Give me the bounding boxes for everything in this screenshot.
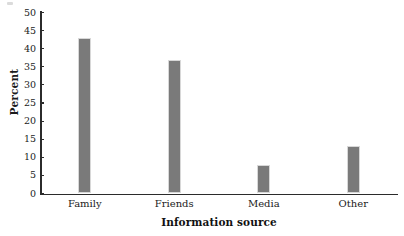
y-axis-tick-label-text: 0	[12, 188, 36, 199]
x-axis-title: Information source	[40, 216, 398, 228]
y-axis-tick	[40, 30, 44, 31]
bar	[257, 165, 270, 194]
y-axis-tick-label-text: 50	[12, 7, 36, 18]
y-axis-tick	[40, 84, 44, 85]
y-axis-tick-label: 0	[12, 188, 36, 200]
y-axis-tick-label: 10	[12, 151, 36, 163]
y-axis-tick-label: 35	[12, 61, 36, 73]
y-axis-tick	[40, 139, 44, 140]
bar	[78, 38, 91, 194]
y-axis-tick	[40, 66, 44, 67]
y-axis-tick	[40, 121, 44, 122]
x-axis-line	[40, 194, 398, 196]
y-axis-tick-label: 25	[12, 97, 36, 109]
y-axis-tick-label: 45	[12, 25, 36, 37]
y-axis-tick-label-text: 20	[12, 115, 36, 126]
y-axis-tick-label: 50	[12, 7, 36, 19]
y-axis-tick	[40, 12, 44, 13]
x-axis-tick-label: Family	[40, 198, 130, 209]
y-axis-tick-label-text: 15	[12, 133, 36, 144]
y-axis-tick-label: 5	[12, 169, 36, 181]
y-axis-tick-label-text: 40	[12, 43, 36, 54]
y-axis-tick-label-text: 5	[12, 169, 36, 180]
y-axis-tick	[40, 48, 44, 49]
y-axis-tick-label: 20	[12, 115, 36, 127]
scan-artifact-speck	[7, 2, 13, 5]
y-axis-tick	[40, 102, 44, 103]
y-axis-tick-label: 30	[12, 79, 36, 91]
bar-chart-figure: Percent 05101520253035404550 FamilyFrien…	[0, 0, 404, 236]
y-axis-tick	[40, 193, 44, 194]
x-axis-tick-label: Friends	[129, 198, 219, 209]
y-axis-tick-label-text: 30	[12, 79, 36, 90]
y-axis-tick-label-text: 45	[12, 25, 36, 36]
bar	[347, 146, 360, 193]
y-axis-tick-label: 15	[12, 133, 36, 145]
x-axis-tick-label: Media	[219, 198, 309, 209]
y-axis-tick-label-text: 10	[12, 151, 36, 162]
y-axis-tick-label-text: 25	[12, 97, 36, 108]
x-axis-tick-label: Other	[308, 198, 398, 209]
bar	[168, 60, 181, 194]
y-axis-tick	[40, 157, 44, 158]
y-axis-tick-label: 40	[12, 43, 36, 55]
y-axis-tick-label-text: 35	[12, 61, 36, 72]
y-axis-tick	[40, 175, 44, 176]
